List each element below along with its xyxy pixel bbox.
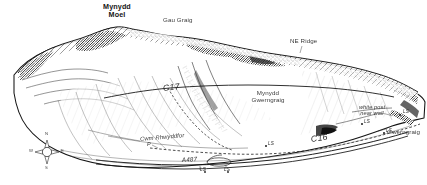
- label-mynydd-moel: Mynydd Moel: [86, 3, 148, 18]
- ridge-panorama-drawing: [0, 0, 427, 185]
- label-ls-6: LS: [224, 168, 230, 173]
- label-mynydd-gwerngraig-line2: Gwerngraig: [237, 97, 299, 104]
- field-sketch-figure: Mynydd Moel Gau Graig NE Ridge Mynydd Gw…: [0, 0, 427, 185]
- label-gau-graig: Gau Graig: [163, 17, 192, 24]
- label-ls-3: LS: [403, 110, 409, 115]
- label-white-post-line2: near wall: [348, 110, 396, 116]
- label-road-a487: A487: [182, 156, 198, 164]
- label-route-c17: C17: [163, 82, 181, 93]
- label-parking-p: P: [147, 142, 151, 148]
- label-ls-4: LS: [386, 129, 392, 134]
- label-mynydd-gwerngraig: Mynydd Gwerngraig: [237, 90, 299, 103]
- compass-label-south: S: [45, 166, 48, 170]
- label-ls-1: LS: [268, 142, 274, 147]
- compass-label-west: W: [29, 149, 33, 153]
- label-ls-2: LS: [364, 120, 370, 125]
- label-ls-5: LS: [200, 168, 206, 173]
- compass-label-east: E: [61, 149, 64, 153]
- label-white-post-near-wall: white post near wall: [348, 104, 396, 117]
- label-mynydd-moel-line2: Moel: [86, 11, 148, 19]
- label-ne-ridge: NE Ridge: [290, 38, 317, 45]
- compass-label-north: N: [45, 132, 48, 136]
